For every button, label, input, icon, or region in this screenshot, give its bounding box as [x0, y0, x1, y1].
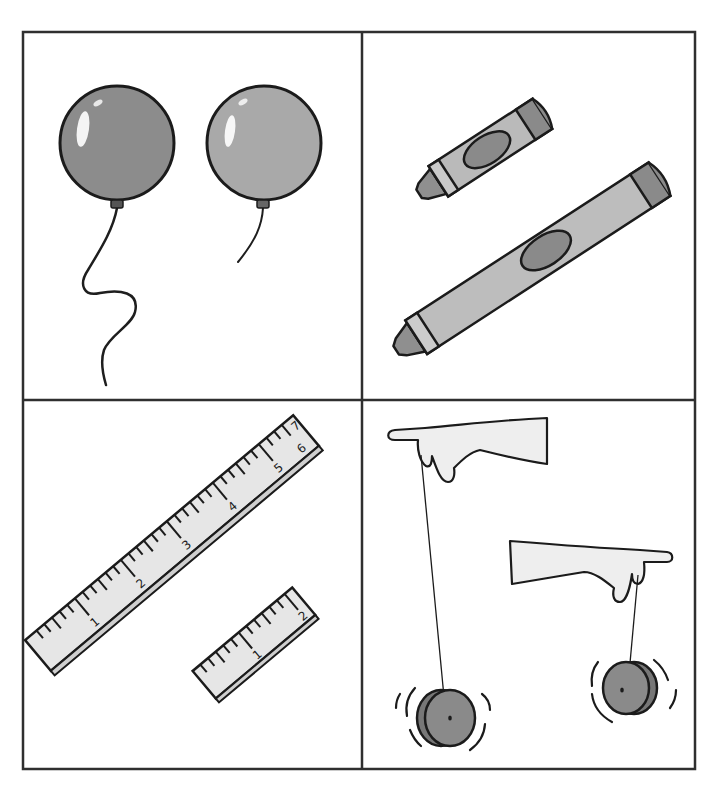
crayon-short: [409, 97, 555, 209]
comparison-picture-grid: 1 2 3 4 5 6 7 1 2: [0, 0, 719, 795]
yoyo-string-short: [630, 575, 638, 663]
yoyo-short-string: [592, 660, 676, 722]
cell-balloons: [60, 86, 321, 385]
hand-bottom: [510, 541, 672, 602]
cell-rulers: 1 2 3 4 5 6 7 1 2: [25, 415, 323, 702]
balloon-short-string: [207, 86, 321, 262]
ruler-short: 1 2: [193, 587, 319, 702]
balloon-long-string: [60, 86, 174, 385]
hand-top: [388, 418, 547, 482]
cell-yoyos: [388, 418, 676, 750]
yoyo-string-long: [421, 455, 444, 697]
cell-crayons: [385, 97, 674, 367]
yoyo-long-string: [396, 688, 490, 750]
